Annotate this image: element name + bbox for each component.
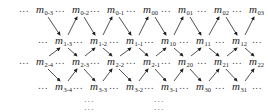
lattice-term: m11 [196,34,211,47]
ellipsis: ... [144,81,154,91]
lattice-term: m03 [249,3,264,16]
lattice-term: m22 [249,55,264,68]
lattice-term: m21 [214,55,229,68]
ellipsis: ... [161,56,171,66]
ellipsis: ... [90,4,100,14]
lattice-term: m1-3 [55,34,72,47]
lattice-term: m1-1 [126,34,143,47]
ellipsis: ... [19,4,29,14]
arrow [209,17,219,35]
lattice-term: m2-1 [143,55,160,68]
lattice-term: m2-3 [72,55,89,68]
ellipsis: ... [90,56,100,66]
ellipsis: ... [126,56,136,66]
lattice-term: m0-1 [107,3,124,16]
ellipsis: ... [38,81,48,91]
ellipsis: ... [109,81,119,91]
arrow [68,17,77,35]
lattice-term: m01 [178,3,193,16]
arrow [174,17,183,35]
arrow [139,17,148,35]
ellipsis: ... [215,35,225,45]
ellipsis: ... [38,35,48,45]
lattice-term: m30 [196,80,211,93]
lattice-term: m0-2 [72,3,89,16]
ellipsis: ... [197,4,207,14]
lattice-term: m3-1 [161,80,178,93]
lattice-term: m31 [232,80,247,93]
ellipsis: ... [73,81,83,91]
ellipsis: ... [55,56,65,66]
arrow [119,17,131,35]
lattice-term: m3-4 [55,80,72,93]
ellipsis: ... [232,4,242,14]
arrow [226,17,237,35]
ellipsis: ... [73,35,83,45]
ellipsis: ... [126,4,136,14]
arrow [190,17,201,35]
vertical-ellipsis: ... [84,103,95,112]
arrow [84,17,95,35]
arrow [245,17,254,35]
ellipsis: ... [19,56,29,66]
ellipsis: ... [252,35,262,45]
lattice-term: m12 [232,34,247,47]
ellipsis: ... [197,56,207,66]
lattice-diagram: ...m0-3...m0-2...m0-1...m00...m01...m02.… [0,0,268,112]
arrow [103,17,112,35]
lattice-term: m10 [161,34,176,47]
ellipsis: ... [55,4,65,14]
ellipsis: ... [215,81,225,91]
lattice-term: m00 [143,3,158,16]
vertical-ellipsis: ... [154,103,165,112]
lattice-term: m3-3 [90,80,107,93]
lattice-term: m3-2 [126,80,143,93]
lattice-term: m20 [178,55,193,68]
arrow [155,17,166,35]
ellipsis: ... [232,56,242,66]
lattice-term: m0-3 [36,3,53,16]
arrow [48,17,60,35]
ellipsis: ... [144,35,154,45]
lattice-term: m2-2 [107,55,124,68]
lattice-term: m1-2 [90,34,107,47]
lattice-term: m02 [214,3,229,16]
ellipsis: ... [252,81,262,91]
ellipsis: ... [161,4,171,14]
ellipsis: ... [179,81,189,91]
ellipsis: ... [109,35,119,45]
ellipsis: ... [179,35,189,45]
lattice-term: m2-4 [36,55,53,68]
